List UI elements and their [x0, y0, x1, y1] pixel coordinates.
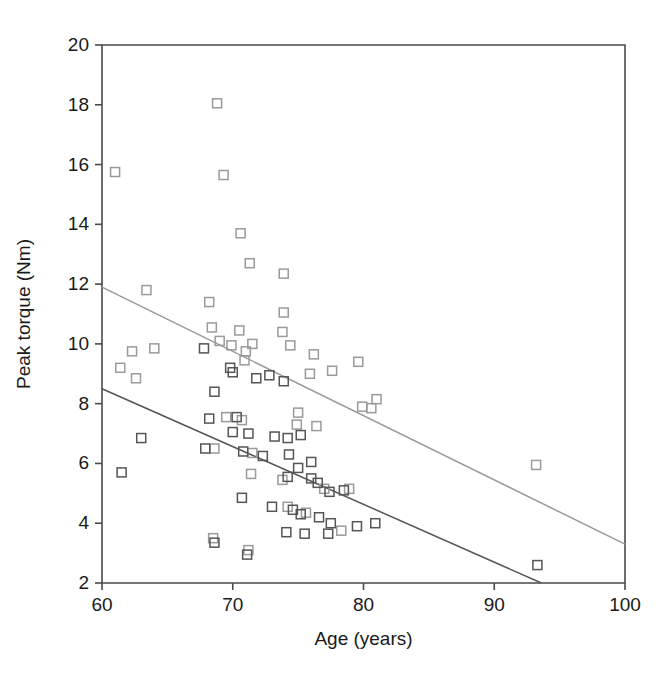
data-point-marker [270, 432, 279, 441]
data-point-marker [278, 327, 287, 336]
data-point-marker [371, 519, 380, 528]
data-point-marker [236, 229, 245, 238]
data-point-marker [267, 502, 276, 511]
axis-labels: 246810121416182060708090100Age (years)Pe… [13, 34, 641, 649]
trendlines [102, 287, 625, 583]
data-point-marker [284, 450, 293, 459]
data-point-marker [352, 522, 361, 531]
data-point-marker [305, 369, 314, 378]
data-point-marker [137, 434, 146, 443]
x-tick-label: 70 [222, 594, 243, 615]
data-point-marker [235, 326, 244, 335]
y-axis-title: Peak torque (Nm) [13, 239, 34, 389]
data-point-marker [309, 350, 318, 359]
y-tick-label: 12 [68, 273, 89, 294]
data-point-marker [150, 344, 159, 353]
y-tick-label: 18 [68, 94, 89, 115]
scatter-plot: 246810121416182060708090100Age (years)Pe… [0, 0, 667, 685]
data-point-marker [245, 259, 254, 268]
data-point-marker [532, 460, 541, 469]
y-tick-label: 20 [68, 34, 89, 55]
data-point-marker [296, 431, 305, 440]
y-tick-label: 16 [68, 154, 89, 175]
data-point-marker [228, 428, 237, 437]
data-point-marker [324, 529, 333, 538]
data-point-marker [358, 402, 367, 411]
data-point-marker [372, 395, 381, 404]
data-point-marker [210, 444, 219, 453]
plot-frame [102, 45, 625, 583]
data-point-marker [252, 374, 261, 383]
y-tick-label: 10 [68, 333, 89, 354]
y-tick-label: 2 [78, 572, 89, 593]
data-point-marker [307, 457, 316, 466]
data-point-marker [282, 528, 291, 537]
data-point-marker [354, 357, 363, 366]
data-point-marker [326, 519, 335, 528]
data-point-marker [244, 429, 253, 438]
axes [95, 45, 625, 590]
data-point-marker [300, 529, 309, 538]
data-point-marker [294, 463, 303, 472]
data-point-marker [210, 387, 219, 396]
data-point-marker [315, 513, 324, 522]
x-axis-title: Age (years) [314, 628, 412, 649]
x-tick-label: 100 [609, 594, 641, 615]
data-point-marker [265, 371, 274, 380]
data-point-marker [247, 469, 256, 478]
data-point-marker [142, 286, 151, 295]
data-point-marker [294, 408, 303, 417]
y-tick-label: 8 [78, 393, 89, 414]
data-point-marker [207, 323, 216, 332]
data-point-marker [279, 269, 288, 278]
data-point-marker [286, 341, 295, 350]
data-point-marker [219, 171, 228, 180]
y-tick-label: 4 [78, 512, 89, 533]
light-trendline [102, 287, 625, 544]
data-point-marker [533, 561, 542, 570]
data-point-marker [237, 493, 246, 502]
data-point-marker [132, 374, 141, 383]
data-point-marker [328, 366, 337, 375]
y-tick-label: 6 [78, 452, 89, 473]
x-tick-label: 60 [91, 594, 112, 615]
data-points [111, 99, 542, 570]
data-point-marker [367, 404, 376, 413]
x-tick-label: 80 [353, 594, 374, 615]
data-point-marker [279, 308, 288, 317]
data-point-marker [117, 468, 126, 477]
data-point-marker [199, 344, 208, 353]
x-tick-label: 90 [484, 594, 505, 615]
data-point-marker [213, 99, 222, 108]
data-point-marker [337, 526, 346, 535]
data-point-marker [222, 413, 231, 422]
data-point-marker [111, 168, 120, 177]
data-point-marker [205, 414, 214, 423]
data-point-marker [312, 422, 321, 431]
chart-figure: 246810121416182060708090100Age (years)Pe… [0, 0, 667, 685]
data-point-marker [205, 298, 214, 307]
data-point-marker [201, 444, 210, 453]
data-point-marker [283, 434, 292, 443]
y-tick-label: 14 [68, 213, 90, 234]
data-point-marker [128, 347, 137, 356]
data-point-marker [292, 420, 301, 429]
data-point-marker [116, 363, 125, 372]
